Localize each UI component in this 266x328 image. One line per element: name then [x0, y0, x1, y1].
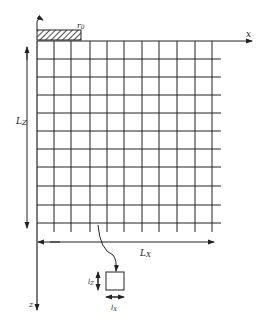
cell-width-label: lX — [111, 304, 117, 312]
grid-diagram: x z r0 LZ LX lZ lX — [0, 0, 266, 328]
rotation-arrow-icon — [37, 19, 43, 30]
cell-detail-box — [106, 272, 124, 290]
source-region — [37, 30, 81, 40]
grid-width-label: LX — [139, 248, 152, 259]
source-label: r0 — [77, 21, 85, 30]
grid-height-label: LZ — [15, 116, 27, 127]
cell-height-label: lZ — [88, 278, 94, 286]
x-axis-label: x — [246, 29, 251, 39]
z-axis-label: z — [28, 300, 34, 309]
computational-grid — [37, 41, 221, 232]
